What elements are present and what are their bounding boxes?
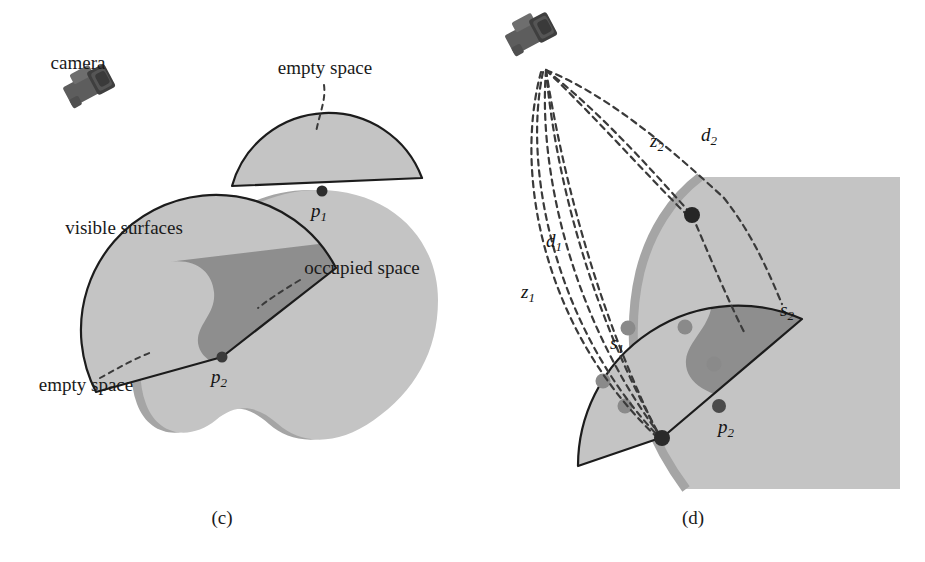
point-p2-dot [217, 352, 228, 363]
figure-svg: camera empty space visible surfaces occu… [0, 0, 925, 562]
point-p1-dot-d [684, 207, 700, 223]
figure-container: camera empty space visible surfaces occu… [0, 0, 925, 562]
caption-d: (d) [682, 507, 704, 529]
voxel-dot [707, 357, 722, 372]
label-z2: z2 [649, 130, 664, 154]
point-p1-dot [317, 186, 328, 197]
label-d1: d1 [546, 230, 562, 254]
label-z1: z1 [520, 281, 535, 305]
panel-d: z1 d1 z2 d2 s1 s2 p2 (d) [501, 6, 900, 529]
label-d2: d2 [701, 124, 718, 148]
voxel-dot [621, 321, 636, 336]
camera-icon [501, 6, 558, 57]
label-visible-surfaces: visible surfaces [65, 217, 183, 238]
label-empty-space-top: empty space [278, 57, 372, 78]
panel-c: camera empty space visible surfaces occu… [39, 52, 438, 529]
point-ray-hit-dot-d [654, 430, 670, 446]
label-empty-space-bottom: empty space [39, 374, 133, 395]
caption-c: (c) [211, 507, 232, 529]
empty-space-semicircle-p1 [232, 113, 422, 186]
point-p2-dot-d [712, 399, 726, 413]
voxel-dot [618, 399, 633, 414]
label-camera: camera [51, 52, 106, 73]
label-occupied-space: occupied space [304, 257, 420, 278]
voxel-dot [678, 320, 693, 335]
